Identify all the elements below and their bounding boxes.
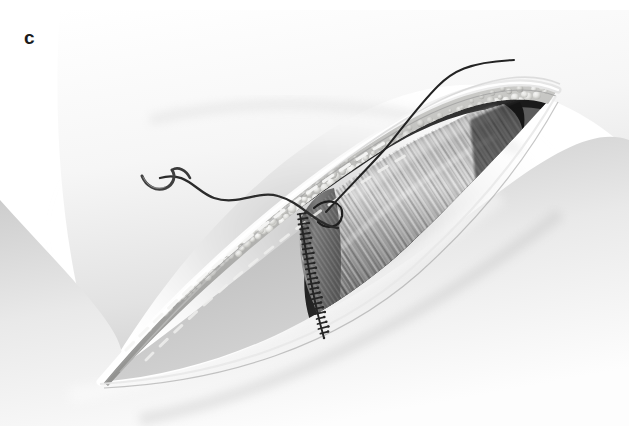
suture-knot [306,217,309,220]
fat-globule [469,99,474,104]
fat-globule [448,109,452,113]
suture-knot [309,242,312,245]
fat-globule [533,91,541,99]
suture-knot [313,262,316,265]
suture-knot [322,306,325,309]
suture-knot [325,321,328,324]
suture-knot [323,316,326,319]
fat-globule [498,95,503,100]
suture-knot [327,325,330,328]
suture-knot [315,266,318,269]
suture-knot [310,237,313,240]
suture-knot [314,272,317,275]
fat-globule [302,196,308,202]
suture-knot [317,286,320,289]
suture-knot [320,296,323,299]
suture-knot [311,257,314,260]
suture-knot [311,247,314,250]
suture-knot [324,311,327,314]
suture-knot [320,301,323,304]
wound-illustration-canvas [0,0,629,426]
suture-knot [317,281,320,284]
fat-globule [521,91,528,98]
suture-knot [318,291,321,294]
suture-knot [308,232,311,235]
suture-knot [316,276,319,279]
medical-illustration-figure: c [0,0,629,426]
suture-knot [307,227,310,230]
fat-globule [516,86,523,93]
suture-knot [308,222,311,225]
suture-knot [312,252,315,255]
panel-label: c [24,28,35,47]
fat-globule [460,105,465,110]
suture-knot [327,330,330,333]
fat-globule [417,120,424,127]
